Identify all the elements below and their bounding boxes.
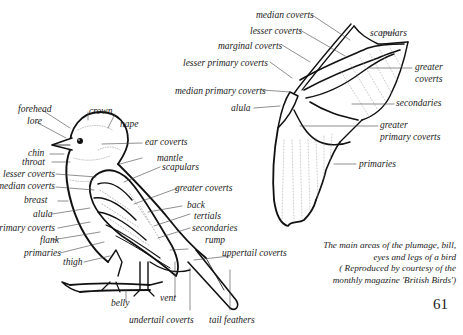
caption-line-4: monthly magazine 'British Birds')	[278, 275, 456, 287]
wing-label-lesser-primary-coverts: lesser primary coverts	[183, 59, 268, 69]
label-greater-coverts: greater coverts	[175, 184, 232, 194]
label-thigh: thigh	[63, 258, 83, 268]
label-scapulars: scapulars	[162, 163, 199, 173]
label-breast: breast	[24, 196, 47, 206]
caption-line-3: ( Reproduced by courtesy of the	[278, 263, 456, 275]
label-back: back	[187, 201, 205, 211]
label-belly: belly	[111, 299, 129, 309]
caption-line-2: eyes and legs of a bird	[278, 252, 456, 264]
label-median-coverts: median coverts	[0, 182, 55, 192]
wing-label-greater-primary-coverts-line2: primary coverts	[380, 133, 440, 143]
label-primary-coverts: primary coverts	[0, 224, 55, 234]
wing-label-greater-coverts-line1: greater	[415, 63, 443, 73]
label-tail-feathers: tail feathers	[209, 316, 255, 326]
label-lore: lore	[27, 117, 42, 127]
label-forehead: forehead	[18, 105, 51, 115]
wing-label-greater-primary-coverts-line1: greater	[380, 121, 408, 131]
label-uppertail-coverts: uppertail coverts	[222, 249, 287, 259]
label-primaries: primaries	[24, 249, 61, 259]
figure-caption: The main areas of the plumage, bill, eye…	[278, 240, 456, 286]
label-lesser-coverts: lesser coverts	[3, 170, 55, 180]
wing-label-marginal-coverts: marginal coverts	[218, 42, 282, 52]
caption-line-1: The main areas of the plumage, bill,	[278, 240, 456, 252]
wing-label-median-coverts: median coverts	[256, 11, 314, 21]
wing-label-lesser-coverts: lesser coverts	[250, 27, 302, 37]
label-secondaries: secondaries	[192, 224, 237, 234]
label-nape: nape	[120, 120, 138, 130]
wing-label-primaries: primaries	[359, 160, 396, 170]
wing-label-alula: alula	[231, 104, 251, 114]
label-undertail-coverts: undertail coverts	[129, 316, 194, 326]
label-crown: crown	[89, 107, 112, 117]
wing-label-median-primary-coverts: median primary coverts	[175, 87, 266, 97]
label-tertials: tertials	[194, 212, 221, 222]
wing-label-scapulars: scapulars	[370, 29, 407, 39]
label-ear-coverts: ear coverts	[145, 138, 187, 148]
label-flank: flank	[40, 236, 59, 246]
label-rump: rump	[205, 236, 225, 246]
wing-label-secondaries: secondaries	[396, 99, 441, 109]
page-number: 61	[433, 296, 448, 313]
label-vent: vent	[160, 294, 176, 304]
wing-label-greater-coverts-line2: coverts	[415, 75, 442, 85]
label-throat: throat	[22, 158, 45, 168]
label-alula: alula	[33, 210, 53, 220]
